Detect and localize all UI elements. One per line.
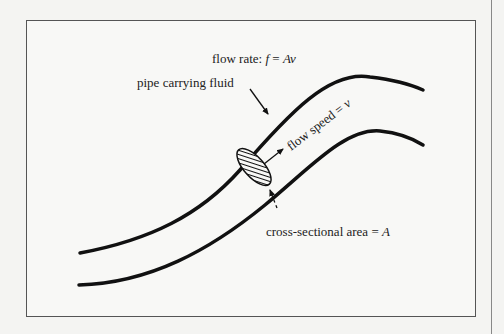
- area-label: cross-sectional area = A: [266, 224, 390, 239]
- flow-speed-label: flow speed = v: [284, 95, 354, 153]
- cross-section-ellipse: [231, 143, 277, 191]
- flow-speed-arrow: [264, 149, 283, 164]
- pipe-flow-diagram: flow rate: f = Av pipe carrying fluid fl…: [0, 0, 504, 334]
- flow-rate-label: flow rate: f = Av: [212, 51, 296, 66]
- pipe-pointer-arrow: [250, 89, 268, 114]
- pipe-label: pipe carrying fluid: [137, 75, 234, 90]
